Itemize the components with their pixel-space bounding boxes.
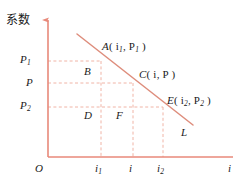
origin-label: O — [35, 163, 43, 174]
y-tick-base-P2: P — [20, 99, 27, 111]
point-label-A: A( i1, P1 ) — [102, 41, 146, 52]
curve-label-L: L — [181, 127, 187, 138]
point-coords-A-mid: , P — [123, 40, 135, 52]
point-coords-E-sub2: 2 — [200, 99, 204, 108]
y-tick-label-P2: P2 — [20, 100, 31, 111]
region-label-D: D — [84, 110, 92, 121]
point-coords-A-open: ( i — [109, 40, 119, 52]
point-name-A: A — [102, 40, 109, 52]
y-tick-sub-P2: 2 — [27, 104, 31, 113]
point-label-C: C( i, P ) — [139, 69, 175, 80]
y-tick-label-P: P — [26, 77, 33, 88]
x-tick-label-i1: i1 — [95, 163, 102, 174]
point-coords-E-close: ) — [204, 94, 211, 106]
x-tick-base-i: i — [129, 162, 132, 174]
x-tick-label-i: i — [129, 163, 132, 174]
region-label-F: F — [116, 110, 123, 121]
point-name-E: E — [167, 94, 174, 106]
x-tick-sub-i2: 2 — [160, 167, 164, 176]
point-coords-E-sub1: 2 — [184, 99, 188, 108]
y-tick-base-P1: P — [20, 53, 27, 65]
point-coords-C-close: ) — [168, 68, 175, 80]
point-coords-A-sub2: 1 — [135, 45, 139, 54]
x-axis-title: i — [228, 163, 231, 174]
point-name-C: C — [139, 68, 147, 80]
point-coords-E-open: ( i — [174, 94, 184, 106]
point-coords-C-mid: , P — [157, 68, 169, 80]
point-coords-A-close: ) — [139, 40, 146, 52]
y-tick-base-P: P — [26, 76, 33, 88]
point-label-E: E( i2, P2 ) — [167, 95, 211, 106]
y-tick-sub-P1: 1 — [27, 58, 31, 67]
point-coords-A-sub1: 1 — [119, 45, 123, 54]
x-tick-sub-i1: 1 — [98, 167, 102, 176]
y-tick-label-P1: P1 — [20, 54, 31, 65]
coefficient-interest-rate-diagram: 系数 P1 P P2 O i1 i i2 i B D F A( i1, P1 )… — [0, 0, 250, 194]
point-coords-E-mid: , P — [188, 94, 200, 106]
point-coords-C-open: ( i — [147, 68, 157, 80]
y-axis-title: 系数 — [6, 14, 30, 26]
x-tick-label-i2: i2 — [157, 163, 164, 174]
region-label-B: B — [84, 66, 91, 77]
